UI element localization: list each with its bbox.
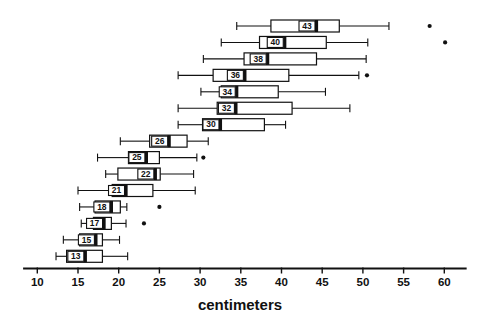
box-label-text: 38 [253,54,263,64]
x-axis-ticks: 1015202530354045505560 [31,268,451,288]
boxplot-row: 40 [221,36,447,48]
x-axis-tick-label: 15 [72,276,85,288]
box-label-text: 15 [82,235,92,245]
box-label-text: 17 [90,218,100,228]
box-label-text: 25 [132,152,142,162]
x-axis-tick-label: 20 [112,276,125,288]
x-axis-title: centimeters [198,296,282,313]
box-iqr [213,69,289,81]
boxplot-row: 22 [106,168,194,180]
box-label-text: 13 [71,251,81,261]
x-axis-tick-label: 35 [234,276,247,288]
boxplot-row: 34 [201,86,326,98]
x-axis-tick-label: 25 [153,276,166,288]
box-label-text: 36 [231,70,241,80]
boxplot-row: 26 [120,135,208,147]
x-axis-tick-label: 40 [275,276,288,288]
outlier-point [142,221,146,225]
box-label-text: 18 [97,202,107,212]
box-label-text: 34 [222,87,232,97]
box-label-text: 30 [206,119,216,129]
outlier-point [201,156,205,160]
boxplot-row: 18 [80,201,162,213]
x-axis: 1015202530354045505560 [23,268,467,288]
box-label-text: 43 [302,21,312,31]
boxplot-row: 17 [81,217,146,229]
boxplot-chart: 434038363432302625222118171513 101520253… [0,0,481,333]
boxplot-row: 21 [78,185,195,197]
outlier-point [428,24,432,28]
x-axis-tick-label: 45 [316,276,329,288]
x-axis-tick-label: 30 [194,276,207,288]
x-axis-tick-label: 60 [438,276,451,288]
boxplot-row: 30 [178,119,285,131]
box-label-text: 32 [222,103,232,113]
boxplot-row: 43 [237,20,432,32]
boxplot-canvas: 434038363432302625222118171513 101520253… [0,0,481,333]
box-label-text: 21 [112,185,122,195]
box-label-text: 40 [271,37,281,47]
boxplot-row: 13 [56,250,128,262]
boxplot-row: 38 [203,53,366,65]
boxplot-row: 15 [63,234,119,246]
outlier-point [157,205,161,209]
x-axis-tick-label: 55 [397,276,410,288]
box-label-text: 26 [155,136,165,146]
x-axis-tick-label: 50 [357,276,370,288]
x-axis-tick-label: 10 [31,276,44,288]
boxplot-row: 25 [98,152,206,164]
outlier-point [443,40,447,44]
boxplot-row: 32 [178,102,350,114]
boxplot-series-group: 434038363432302625222118171513 [56,20,447,262]
box-label-text: 22 [141,169,151,179]
boxplot-row: 36 [178,69,369,81]
outlier-point [365,73,369,77]
